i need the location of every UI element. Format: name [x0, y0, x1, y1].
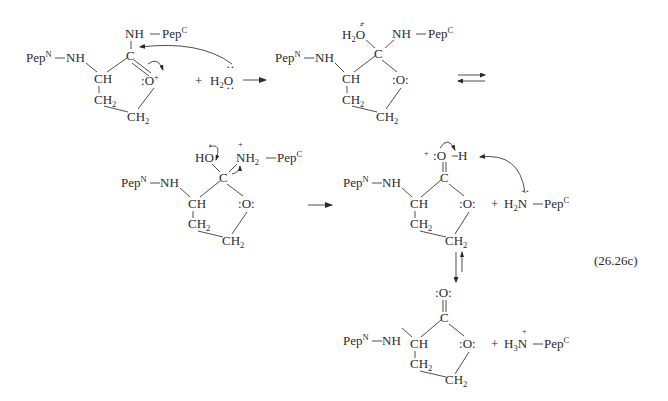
- water-lone-pair-top: ··: [226, 59, 235, 74]
- s3-ch2-b-label: CH2: [222, 233, 244, 250]
- s5-ch-label: CH: [410, 336, 428, 351]
- s3-bond-ch-c: [200, 181, 220, 197]
- s5-bond-ch2-ch2: [420, 371, 446, 377]
- s5-bond-nh-ch: [402, 328, 412, 337]
- s5-carbon-label: C: [440, 310, 449, 325]
- s4-curved-arrow-deprotonation: [480, 156, 525, 193]
- s4-carbon-label: C: [440, 170, 449, 185]
- s5-ch2-b-label: CH2: [445, 372, 467, 389]
- s1-oxygen-label: :O+: [141, 72, 159, 88]
- s1-bond-ch2-o: [138, 88, 154, 109]
- s3-nh2-label: NH2: [236, 150, 259, 167]
- s4-bond-ch2-ch2: [420, 231, 446, 237]
- s5-bond-ch-c: [421, 320, 441, 337]
- s3-ch2-a-label: CH2: [188, 216, 210, 233]
- s4-bond-nh-ch: [402, 188, 412, 197]
- equation-label: (26.26c): [594, 253, 638, 268]
- s2-oxonium-lone-pair: ·: [359, 17, 363, 32]
- s3-bond-nh-ch: [180, 188, 190, 197]
- s5-ch2-a-label: CH2: [410, 356, 432, 373]
- s2-ring-oxygen-label: :O:: [392, 72, 409, 87]
- s2-nh-label: NH: [315, 50, 334, 65]
- s5-nh-label: NH: [382, 333, 401, 348]
- s4-ch2-b-label: CH2: [445, 233, 467, 250]
- s4-oxonium-label: :O: [433, 148, 446, 163]
- s4-amine-lone-pair: ··: [521, 183, 530, 198]
- s5-pepn-label: PepN: [343, 332, 369, 348]
- s5-bond-c-o: [449, 324, 464, 336]
- s1-carbon-label: C: [126, 48, 135, 63]
- water-lone-pair-bottom: ··: [226, 80, 235, 95]
- s1-bond-ch-c: [107, 58, 127, 72]
- s5-pepc-label: PepC: [544, 335, 570, 351]
- s1-bond-nh-ch: [86, 63, 97, 72]
- s3-ring-oxygen-label: :O:: [238, 196, 255, 211]
- s1-pepc-label: PepC: [162, 25, 188, 41]
- s5-ring-oxygen-label: :O:: [459, 336, 476, 351]
- structure-3-tetrahedral-ammonium: PepN NH HO · + NH2 PepC C CH :O: CH2 CH2: [121, 137, 303, 250]
- s2-bond-o-c: [366, 40, 375, 48]
- s4-bond-ch2-o: [455, 212, 469, 234]
- reaction-mechanism-diagram: NH PepC PepN NH C CH :O+ CH2 CH2 + H2O ·…: [0, 0, 668, 401]
- arrow-equilibrium-vertical: [456, 252, 462, 282]
- plus-sign-2: +: [491, 196, 498, 211]
- s4-hydrogen-label: H: [458, 148, 467, 163]
- s2-nh2-label: NH: [392, 26, 411, 41]
- s5-bond-ch2-o: [455, 352, 469, 374]
- s4-pepc-label: PepC: [544, 195, 570, 211]
- s1-ch2-b-label: CH2: [127, 109, 149, 126]
- s4-nh-label: NH: [382, 175, 401, 190]
- arrow-equilibrium-1: [458, 75, 485, 81]
- water-reagent: + H2O ·· ··: [195, 59, 235, 95]
- plus-sign-1: +: [195, 73, 202, 88]
- s2-bond-ch2-o: [386, 88, 401, 109]
- s2-carbon-label: C: [374, 46, 383, 61]
- plus-sign-3: +: [491, 336, 498, 351]
- s5-carbonyl-oxygen-label: :O:: [435, 285, 452, 300]
- s3-nh-label: NH: [160, 175, 179, 190]
- s3-ho-label: HO: [195, 150, 214, 165]
- s3-bond-ch2-o: [232, 212, 247, 234]
- s3-bond-c-o: [227, 184, 243, 196]
- s3-pepn-label: PepN: [121, 174, 147, 190]
- s3-bond-c-n: [229, 164, 237, 172]
- s2-pepn-label: PepN: [275, 49, 301, 65]
- s3-carbon-label: C: [219, 170, 228, 185]
- s4-ch-label: CH: [410, 196, 428, 211]
- s4-bond-c-o: [449, 184, 464, 196]
- s4-oxonium-charge: +: [424, 148, 429, 158]
- structure-5-lactone-product: PepN NH :O: C CH :O: CH2 CH2 + H3N + Pep…: [343, 285, 570, 389]
- s1-ch-label: CH: [94, 71, 112, 86]
- s4-ring-oxygen-label: :O:: [459, 196, 476, 211]
- s1-nh2-label: NH: [66, 50, 85, 65]
- s2-bond-c-o: [382, 60, 397, 72]
- s3-bond-o-c: [212, 164, 220, 172]
- s3-ch-label: CH: [188, 196, 206, 211]
- s4-amine-label: H2N: [504, 196, 528, 213]
- s2-bond-ch2-ch2: [352, 106, 377, 112]
- s1-curved-arrow-pi-bond: [148, 61, 163, 70]
- structure-4-protonated-lactone: PepN NH + :O H C CH :O: CH2 CH2 + H2N ··…: [343, 142, 570, 250]
- s5-ammonium-charge: +: [522, 326, 527, 336]
- s2-bond-c-nh: [385, 40, 394, 48]
- s4-pepn-label: PepN: [343, 174, 369, 190]
- s2-ch2-b-label: CH2: [376, 109, 398, 126]
- s2-ch-label: CH: [342, 71, 360, 86]
- s1-pepn-label: PepN: [26, 49, 52, 65]
- s3-pepc-label: PepC: [277, 149, 303, 165]
- s3-ammonium-charge: +: [238, 139, 243, 149]
- s2-bond-nh-ch: [335, 63, 344, 72]
- s4-bond-ch-c: [421, 180, 441, 197]
- s3-bond-ch2-ch2: [198, 231, 223, 237]
- s3-ho-lone-pair: ·: [208, 137, 212, 152]
- structure-2-tetrahedral-oxonium: PepN NH H2O + · NH PepC C CH :O: CH2 CH2: [275, 17, 454, 126]
- s1-nh-label: NH: [125, 26, 144, 41]
- s5-ammonium-label: H3N: [504, 336, 528, 353]
- s2-bond-ch-c: [354, 56, 375, 72]
- s2-pepc-label: PepC: [428, 25, 454, 41]
- s4-ch2-a-label: CH2: [410, 216, 432, 233]
